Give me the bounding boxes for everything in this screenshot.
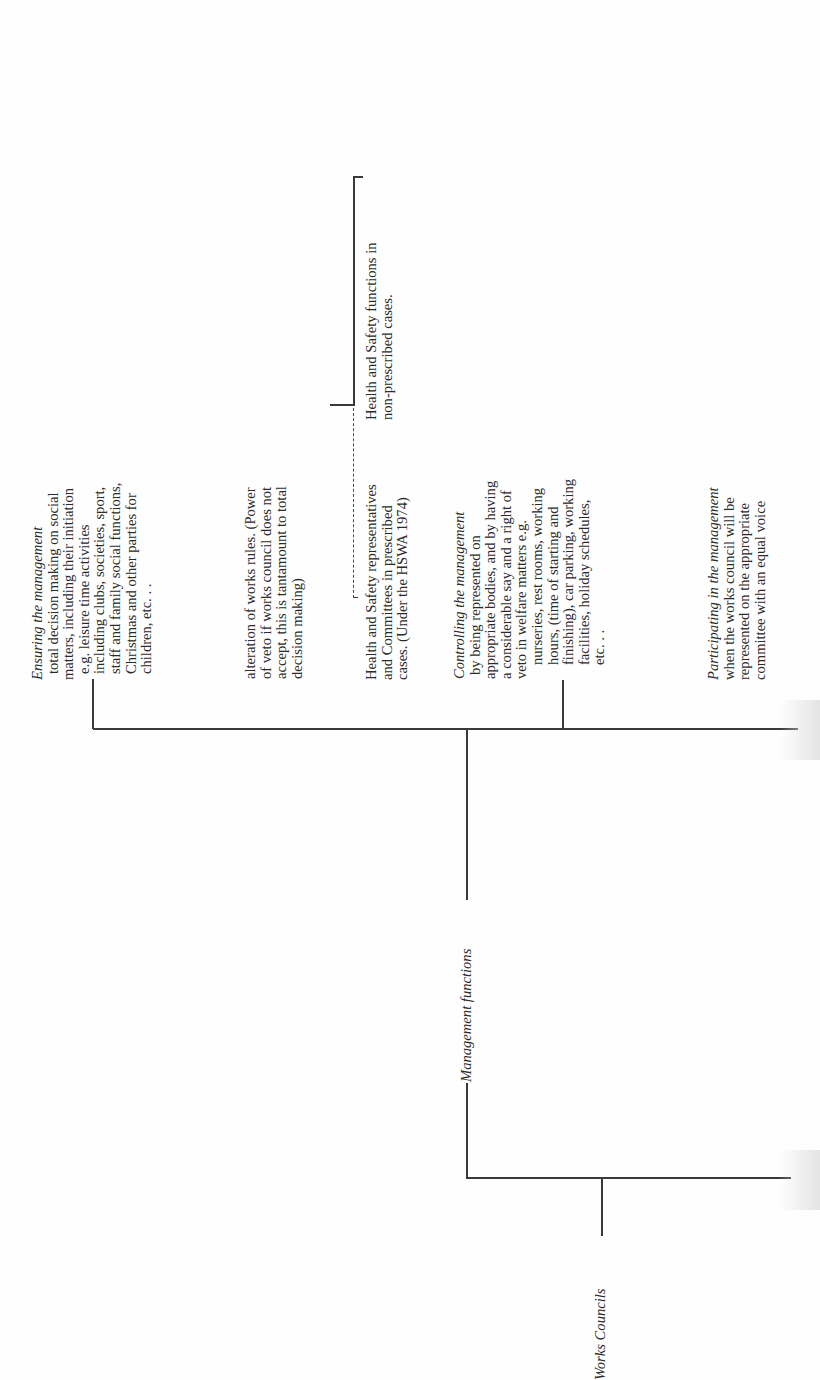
bracket-hs-top-tick	[353, 176, 363, 178]
bracket-ensuring	[92, 679, 94, 729]
branch-line-management	[93, 728, 798, 730]
block-line: of veto if works council does not	[259, 486, 275, 679]
block-line: finishing), car parking, working	[561, 479, 577, 679]
block-line: etc. . .	[592, 479, 608, 679]
block-line: alteration of works rules. (Power	[243, 486, 259, 679]
block-line: decision making)	[290, 486, 306, 679]
block-line: accept, this is tantamount to total	[274, 486, 290, 679]
block-line: staff and family social functions,	[108, 483, 124, 680]
block-line: including clubs, societies, sport,	[92, 483, 108, 680]
block-line: a considerable say and a right of	[499, 479, 515, 679]
block-controlling: Controlling the management by being repr…	[452, 479, 608, 679]
block-line: Health and Safety functions in	[364, 242, 380, 420]
block-line: children, etc. . .	[139, 483, 155, 680]
page-edge-shadow	[780, 700, 820, 760]
block-line: non-prescribed cases.	[380, 242, 396, 420]
block-line: Health and Safety representatives	[364, 484, 380, 680]
page-edge-shadow	[780, 1150, 820, 1210]
block-line: matters, including their initiation	[61, 483, 77, 680]
stem-works-councils	[601, 1178, 603, 1236]
bracket-hs-bottom-tick	[330, 404, 354, 406]
block-line: when the works council will be	[722, 487, 738, 680]
label-works-councils: Works Councils	[592, 1289, 608, 1380]
block-line: appropriate bodies, and by having	[483, 479, 499, 679]
block-heading: Participating in the management	[706, 487, 722, 680]
dashed-connector-end-tick	[353, 597, 358, 598]
stem-management-upper	[466, 728, 468, 900]
label-management-functions: Management functions	[458, 949, 474, 1082]
block-hs-representatives: Health and Safety representatives and Co…	[364, 484, 411, 680]
block-line: cases. (Under the HSWA 1974)	[395, 484, 411, 680]
block-line: hours, (time of starting and	[546, 479, 562, 679]
block-hs-functions: Health and Safety functions in non-presc…	[364, 242, 395, 420]
node-label: Management functions	[458, 949, 474, 1082]
block-line: nurseries, rest rooms, working	[530, 479, 546, 679]
document-page: Ensuring the management total decision m…	[0, 0, 820, 1380]
stem-management-lower	[466, 1083, 468, 1178]
block-participating: Participating in the management when the…	[706, 487, 768, 680]
dashed-connector-hs	[353, 408, 354, 598]
block-line: by being represented on	[468, 479, 484, 679]
block-line: Christmas and other parties for	[124, 483, 140, 680]
node-label: Works Councils	[592, 1289, 608, 1380]
block-line: and Committees in prescribed	[380, 484, 396, 680]
bracket-controlling	[562, 680, 564, 729]
block-heading: Ensuring the management	[30, 483, 46, 680]
block-ensuring: Ensuring the management total decision m…	[30, 483, 155, 680]
block-line: veto in welfare matters e.g.	[514, 479, 530, 679]
block-line: represented on the appropriate	[737, 487, 753, 680]
block-line: e.g. leisure time activities	[77, 483, 93, 680]
block-line: total decision making on social	[46, 483, 62, 680]
block-heading: Controlling the management	[452, 479, 468, 679]
block-works-rules: alteration of works rules. (Power of vet…	[243, 486, 305, 679]
block-line: facilities, holiday schedules,	[577, 479, 593, 679]
bracket-hs-vertical	[353, 176, 355, 406]
branch-line-works-councils	[466, 1177, 791, 1179]
block-line: committee with an equal voice	[753, 487, 769, 680]
